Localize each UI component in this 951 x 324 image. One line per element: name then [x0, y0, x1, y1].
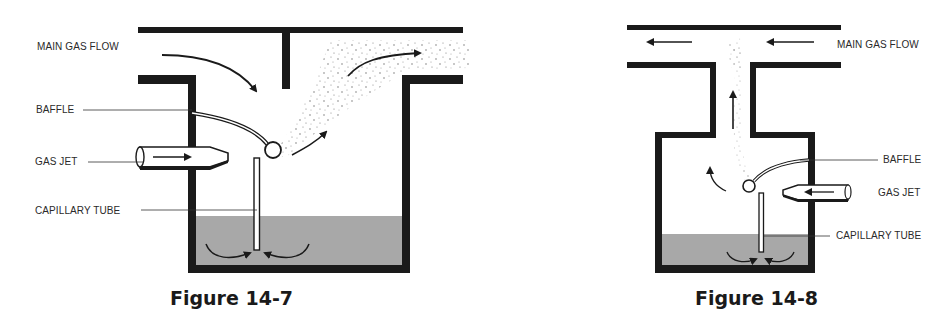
pipe-top-wall — [138, 27, 463, 33]
figure-14-7: MAIN GAS FLOW BAFFLE GAS JET CAPILLARY T… — [35, 27, 470, 309]
label-capillary-tube: CAPILLARY TUBE — [35, 205, 121, 216]
aerosol-spray — [275, 40, 470, 158]
gas-jet-nozzle — [136, 147, 228, 170]
gas-jet-nozzle — [783, 185, 851, 202]
nebulizer-diagrams: MAIN GAS FLOW BAFFLE GAS JET CAPILLARY T… — [0, 0, 951, 324]
main-flow-arrow — [162, 55, 256, 91]
pipe-top-wall — [627, 25, 841, 30]
label-main-gas-flow: MAIN GAS FLOW — [37, 41, 119, 52]
label-gas-jet: GAS JET — [35, 156, 77, 167]
capillary-tube — [759, 193, 764, 252]
figure-14-8: MAIN GAS FLOW BAFFLE GAS JET CAPILLARY T… — [627, 25, 922, 309]
label-main-gas-flow: MAIN GAS FLOW — [837, 39, 919, 50]
label-baffle: BAFFLE — [883, 154, 922, 165]
baffle — [192, 113, 268, 145]
capillary-tube — [254, 158, 260, 250]
label-baffle: BAFFLE — [36, 104, 75, 115]
baffle-ball — [265, 142, 281, 158]
label-gas-jet: GAS JET — [878, 187, 920, 198]
pipe-divider — [282, 30, 290, 89]
figure-caption: Figure 14-7 — [170, 287, 293, 309]
label-capillary-tube: CAPILLARY TUBE — [836, 230, 922, 241]
baffle-ball — [743, 180, 755, 192]
vessel-wall-right — [750, 62, 841, 138]
figure-caption: Figure 14-8 — [695, 287, 818, 309]
